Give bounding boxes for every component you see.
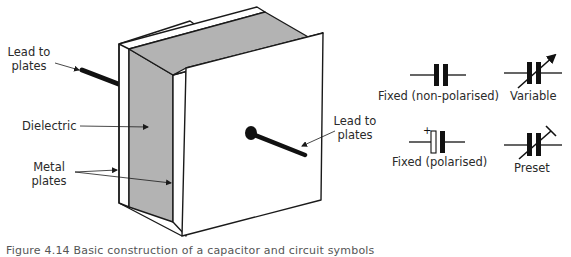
symbol-label-preset: Preset	[514, 161, 550, 175]
capacitor-body	[119, 7, 323, 236]
capacitor-preset-icon	[504, 126, 562, 159]
capacitor-polarised-icon: +	[409, 125, 465, 153]
label-dielectric: Dielectric	[22, 119, 76, 133]
label-metal-plates: Metal plates	[24, 160, 74, 188]
symbol-label-polarised: Fixed (polarised)	[392, 155, 487, 169]
left-lead	[82, 70, 121, 85]
polarity-plus: +	[423, 125, 431, 136]
capacitor-variable-icon	[504, 55, 562, 88]
label-lead-left: Lead to plates	[6, 45, 52, 73]
capacitor-fixed-icon	[410, 64, 466, 86]
symbol-label-fixed: Fixed (non-polarised)	[378, 89, 499, 103]
figure-caption: Figure 4.14 Basic construction of a capa…	[6, 244, 375, 257]
label-lead-right: Lead to plates	[330, 114, 380, 142]
symbol-label-variable: Variable	[510, 89, 557, 103]
